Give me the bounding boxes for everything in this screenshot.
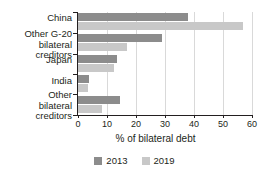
bar-other-2013 (78, 96, 120, 104)
legend-swatch-2019 (142, 157, 150, 165)
x-tick-mark-50 (223, 115, 224, 118)
x-tick-label: 30 (160, 119, 170, 129)
bar-other-2019 (78, 105, 102, 113)
x-tick-mark-60 (252, 115, 253, 118)
bar-india-2019 (78, 84, 88, 92)
x-tick-label: 20 (131, 119, 141, 129)
gridline-60 (252, 12, 253, 115)
x-tick-label: 10 (102, 119, 112, 129)
legend-item-2013: 2013 (94, 155, 127, 166)
bar-china-2019 (78, 22, 243, 30)
y-axis-tick (73, 33, 77, 34)
x-tick-label: 50 (218, 119, 228, 129)
y-axis-tick (73, 74, 77, 75)
category-label-india: India (51, 76, 72, 87)
y-axis-tick (73, 54, 77, 55)
x-axis-title-text: % of bilateral debt (115, 133, 195, 144)
bar-chart: 0 10 20 30 40 50 60 China Other G-20 bil… (0, 0, 269, 174)
category-label-japan: Japan (46, 55, 72, 66)
x-tick-mark-30 (165, 115, 166, 118)
chart-legend: 2013 2019 (0, 155, 269, 166)
x-tick-mark-10 (107, 115, 108, 118)
legend-swatch-2013 (94, 157, 102, 165)
x-tick-mark-20 (136, 115, 137, 118)
y-axis-tick (73, 94, 77, 95)
x-tick-mark-40 (194, 115, 195, 118)
x-tick-label: 0 (75, 119, 80, 129)
x-tick-label: 60 (247, 119, 257, 129)
category-label-other: Other bilateral creditors (0, 90, 72, 122)
x-tick-mark-0 (78, 115, 79, 118)
bar-japan-2013 (78, 55, 117, 63)
legend-item-2019: 2019 (142, 155, 175, 166)
y-axis-tick (73, 12, 77, 13)
bar-india-2013 (78, 75, 89, 83)
bar-other-g20-2013 (78, 34, 162, 42)
x-tick-label: 40 (189, 119, 199, 129)
category-label-china: China (47, 13, 72, 24)
bar-japan-2019 (78, 64, 114, 72)
x-axis-title: % of bilateral debt (0, 133, 269, 144)
bar-other-g20-2019 (78, 43, 127, 51)
y-axis-tick (73, 115, 77, 116)
bar-china-2013 (78, 13, 188, 21)
legend-label-2019: 2019 (154, 155, 175, 166)
legend-label-2013: 2013 (106, 155, 127, 166)
